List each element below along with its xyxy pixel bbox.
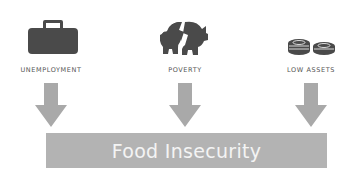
down-arrow-icon — [294, 83, 328, 127]
coins-icon — [287, 37, 337, 56]
down-arrow-icon — [34, 83, 68, 127]
briefcase-icon — [27, 18, 79, 56]
outcome-label: Food Insecurity — [112, 140, 262, 162]
broken-piggy-bank-icon — [160, 18, 208, 58]
cause-label-low-assets: LOW ASSETS — [266, 66, 356, 74]
down-arrow-icon — [168, 83, 202, 127]
outcome-box: Food Insecurity — [46, 133, 327, 168]
cause-label-poverty: POVERTY — [140, 66, 230, 74]
cause-label-unemployment: UNEMPLOYMENT — [6, 66, 96, 74]
